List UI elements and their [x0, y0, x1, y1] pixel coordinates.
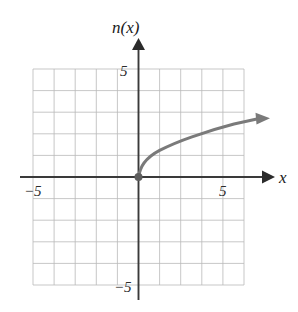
- x-axis-label: x: [278, 168, 287, 187]
- y-tick-label-positive-5: 5: [120, 63, 128, 79]
- y-axis-label: n(x): [112, 18, 140, 37]
- x-axis-arrow-icon: [262, 171, 275, 184]
- curve-n-of-x: [139, 113, 271, 177]
- y-axis-arrow-icon: [132, 38, 145, 50]
- origin-endpoint-dot: [135, 173, 143, 181]
- y-tick-label-negative-5: −5: [114, 279, 132, 295]
- y-axis: [132, 38, 145, 300]
- x-tick-label-negative-5: −5: [24, 183, 42, 199]
- x-axis: [20, 171, 275, 184]
- graph-figure: −5 5 5 −5 n(x) x: [0, 0, 298, 312]
- coordinate-plane-svg: −5 5 5 −5 n(x) x: [0, 0, 298, 312]
- x-tick-label-positive-5: 5: [219, 183, 227, 199]
- curve-arrow-icon: [256, 113, 271, 125]
